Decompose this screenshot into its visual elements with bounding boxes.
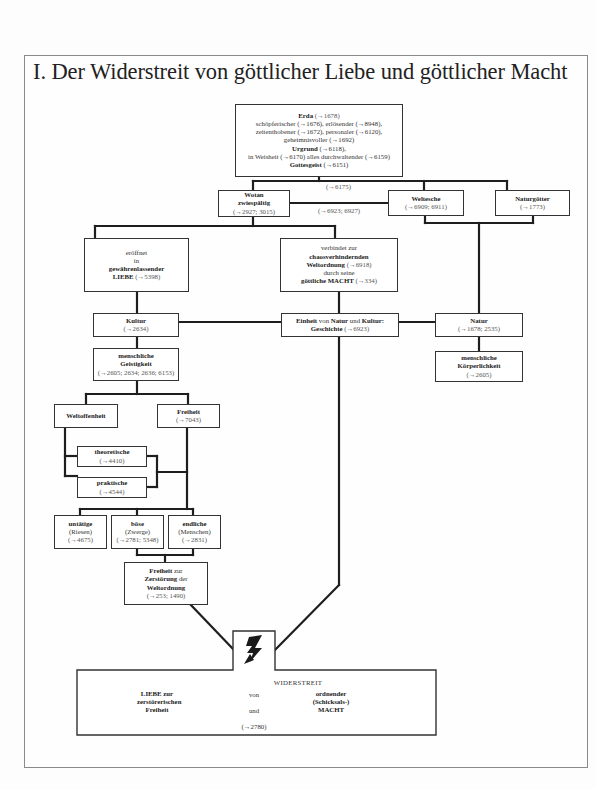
widerstreit-und: und	[234, 707, 274, 715]
widerstreit-right-3: MACHT	[306, 706, 356, 714]
widerstreit-right-2: (Schicksals-)	[306, 698, 356, 706]
widerstreit-right: ordnender (Schicksals-) MACHT	[306, 690, 356, 715]
widerstreit-ref: (→2780)	[234, 723, 274, 731]
widerstreit-left-1: LIEBE zur	[137, 690, 177, 698]
widerstreit-left-3: Freiheit	[137, 706, 177, 714]
widerstreit-left-2: zerstörerischen	[137, 698, 177, 706]
widerstreit-title: WIDERSTREIT	[0, 679, 596, 687]
widerstreit-von: von	[234, 691, 274, 699]
widerstreit-outline	[0, 0, 596, 789]
widerstreit-right-1: ordnender	[306, 690, 356, 698]
widerstreit-left: LIEBE zur zerstörerischen Freiheit	[137, 690, 177, 715]
